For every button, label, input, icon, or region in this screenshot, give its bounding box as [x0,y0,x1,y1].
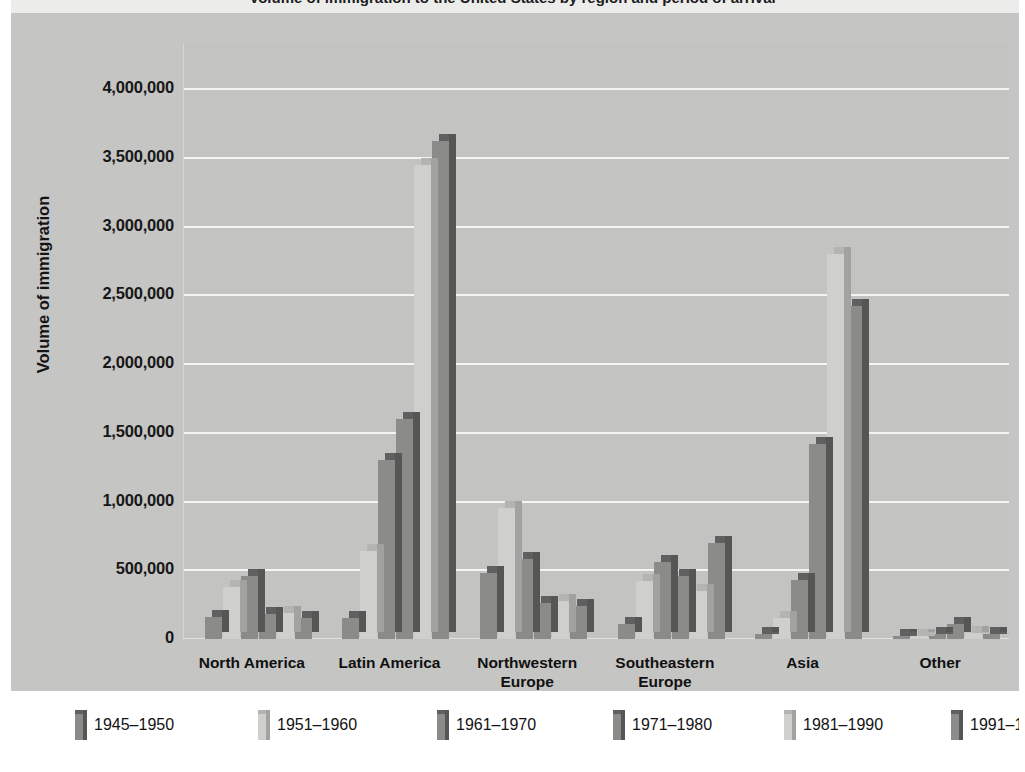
legend-swatch-icon [75,710,86,740]
legend-swatch-face [437,714,445,740]
bar-side [258,569,265,632]
legend-label: 1971–1980 [632,716,712,734]
chart-page: Volume of immigration to the United Stat… [0,0,1025,772]
bar-side [671,555,678,632]
bar-side [635,617,642,632]
legend-label: 1961–1970 [456,716,536,734]
bar-side [725,536,732,632]
bar-side [569,594,576,633]
legend-item[interactable]: 1961–1970 [437,708,536,742]
bar-side [359,611,366,632]
bar-group [459,44,597,641]
legend-swatch-face [951,714,959,740]
bar-side [964,617,971,632]
legend-item[interactable]: 1971–1980 [613,708,712,742]
bar-face [342,618,359,639]
legend-label: 1981–1990 [803,716,883,734]
legend-swatch-side [621,710,625,740]
bar-side [222,610,229,632]
bar [755,634,772,639]
legend-swatch-face [613,714,621,740]
page-bottom-margin [0,762,1025,772]
bar-side [982,626,989,632]
y-axis-tick-label: 0 [14,628,174,647]
bar-face [893,636,910,639]
bar [480,573,497,639]
bar-face [965,633,982,639]
bar-side [689,569,696,632]
bar-side [946,627,953,633]
y-axis-tick-label: 2,500,000 [14,284,174,303]
bar-face [618,624,635,639]
legend-item[interactable]: 1991–1998 [951,708,1025,742]
legend-swatch-icon [951,710,962,740]
bar [342,618,359,639]
bar [205,617,222,639]
legend-item[interactable]: 1945–1950 [75,708,174,742]
bar-group [184,44,322,641]
legend-swatch-face [258,714,266,740]
legend-swatch-side [445,710,449,740]
bar-face [205,617,222,639]
legend-swatch-face [784,714,792,740]
bar [983,634,1000,640]
bar-face [755,634,772,639]
legend-swatch-icon [437,710,448,740]
bar-side [276,607,283,632]
bar-side [587,599,594,632]
bar-side [653,574,660,632]
bar-side [240,580,247,632]
bar-side [377,544,384,632]
bar-side [1000,627,1007,633]
bar-side [844,247,851,632]
legend-swatch-icon [258,710,269,740]
figure-title-strip: Volume of immigration to the United Stat… [0,0,1025,13]
bar [618,624,635,639]
y-axis-tick-label: 3,500,000 [14,147,174,166]
x-axis-category-label: Other [850,653,1025,672]
bar-face [983,634,1000,640]
legend-swatch-side [792,710,796,740]
legend-swatch-icon [784,710,795,740]
bar-side [413,412,420,632]
legend-label: 1945–1950 [94,716,174,734]
legend-swatch-side [266,710,270,740]
figure-title: Volume of immigration to the United Stat… [0,0,1025,6]
bar-side [515,501,522,632]
bar-side [910,629,917,632]
bar-side [772,627,779,632]
bar-group [735,44,873,641]
bar [893,636,910,639]
x-axis-category-line: Other [850,653,1025,672]
bar [965,633,982,639]
bar-side [312,611,319,632]
bar-side [294,606,301,632]
bar-face [911,636,928,639]
bar-side [395,453,402,632]
x-axis-category-line: Europe [575,672,755,691]
y-axis-tick-label: 1,000,000 [14,491,174,510]
legend-label: 1951–1960 [277,716,357,734]
y-axis-tick-label: 500,000 [14,559,174,578]
bar-group [322,44,460,641]
plot-area [183,44,1009,641]
legend-item[interactable]: 1981–1990 [784,708,883,742]
y-axis-tick-label: 4,000,000 [14,78,174,97]
bar-side [808,573,815,632]
plot-background [183,44,1009,641]
bar-side [928,629,935,632]
y-axis-tick-label: 2,000,000 [14,353,174,372]
y-axis-tick-label: 1,500,000 [14,422,174,441]
legend-swatch-icon [613,710,624,740]
y-axis-tick-label: 3,000,000 [14,216,174,235]
legend-swatch-side [959,710,963,740]
bar-side [533,552,540,632]
bar-side [551,596,558,632]
chart-legend: 1945–19501951–19601961–19701971–19801981… [11,700,1019,762]
page-left-margin [0,0,11,772]
legend-swatch-face [75,714,83,740]
page-right-margin [1019,0,1025,772]
legend-item[interactable]: 1951–1960 [258,708,357,742]
legend-swatch-side [83,710,87,740]
bar-side [449,134,456,632]
